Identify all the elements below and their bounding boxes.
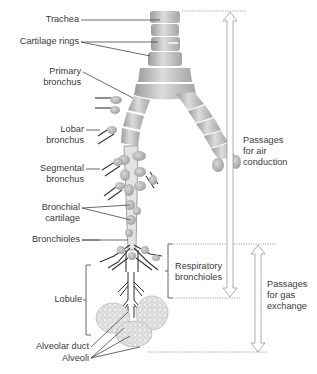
- label-lobule: Lobule: [54, 294, 82, 305]
- label-bronchioles: Bronchioles: [32, 234, 80, 245]
- label-segmental-bronchus: Segmentalbronchus: [40, 163, 84, 185]
- label-alveolar-duct: Alveolar duct: [36, 341, 89, 352]
- gas-exchange-arrow: [251, 245, 265, 352]
- airway-illustration: [0, 0, 317, 374]
- label-trachea: Trachea: [46, 14, 79, 25]
- respiratory-bronchioles-bracket: [165, 244, 173, 298]
- label-lobar-bronchus: Lobarbronchus: [46, 124, 84, 146]
- label-alveoli: Alveoli: [62, 353, 89, 364]
- label-passages-gas-exchange: Passagesfor gasexchange: [267, 279, 307, 312]
- label-passages-air-conduction: Passagesfor airconduction: [243, 135, 287, 168]
- label-cartilage-rings: Cartilage rings: [20, 36, 79, 47]
- label-primary-bronchus: Primarybronchus: [43, 66, 81, 88]
- left-bronchus-shape: [118, 96, 150, 250]
- label-respiratory-bronchioles: Respiratorybronchioles: [175, 261, 222, 283]
- label-bronchial-cartilage: Bronchialcartilage: [42, 202, 80, 224]
- lobule-bracket: [83, 265, 91, 335]
- trachea-shape: [134, 11, 196, 100]
- alveoli-clusters: [96, 296, 168, 347]
- respiratory-tree-diagram: Trachea Cartilage rings Primarybronchus …: [0, 0, 317, 374]
